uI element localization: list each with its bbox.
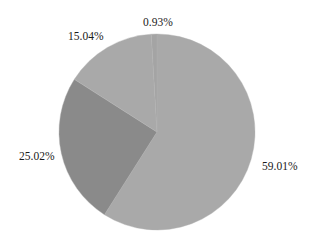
slice-label: 0.93% [143,16,173,28]
slice-label: 15.04% [68,30,104,42]
pie-slices [59,34,255,230]
pie-chart: 59.01% 25.02% 15.04% 0.93% [0,0,313,247]
slice-label: 25.02% [19,150,55,162]
slice-label: 59.01% [262,160,298,172]
